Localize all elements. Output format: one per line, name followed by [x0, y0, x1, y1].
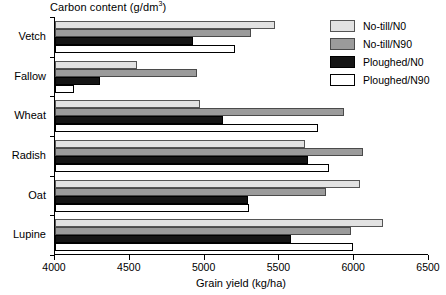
x-axis-tick [54, 255, 55, 260]
legend-label-no-till-n0: No-till/N0 [363, 20, 406, 32]
bar-oat-no-till-n90 [55, 188, 326, 196]
bar-lupine-ploughed-n90 [55, 243, 353, 251]
bar-fallow-no-till-n90 [55, 69, 197, 77]
bar-wheat-no-till-n90 [55, 108, 344, 116]
legend-item: Ploughed/N90 [330, 72, 442, 90]
bar-group [55, 100, 428, 132]
chart-legend: No-till/N0No-till/N90Ploughed/N0Ploughed… [330, 18, 442, 90]
bar-wheat-ploughed-n0 [55, 116, 223, 124]
legend-swatch-ploughed-n90 [330, 74, 355, 86]
bar-radish-ploughed-n90 [55, 164, 329, 172]
x-axis-tick [278, 255, 279, 260]
x-axis-tick-label: 4500 [117, 261, 140, 273]
category-label-lupine: Lupine [0, 228, 50, 240]
chart-title-main: Carbon content (g/dm [50, 1, 158, 13]
bar-wheat-ploughed-n90 [55, 124, 318, 132]
bar-vetch-ploughed-n90 [55, 45, 235, 53]
bar-vetch-no-till-n0 [55, 21, 275, 29]
category-tick [50, 57, 55, 58]
category-tick [50, 215, 55, 216]
category-label-radish: Radish [0, 149, 50, 161]
bar-lupine-no-till-n0 [55, 219, 383, 227]
bar-oat-ploughed-n0 [55, 196, 248, 204]
x-axis: 400045005000550060006500 [54, 255, 428, 277]
category-label-oat: Oat [0, 189, 50, 201]
bar-fallow-ploughed-n90 [55, 85, 74, 93]
legend-item: Ploughed/N0 [330, 54, 442, 72]
category-tick [50, 176, 55, 177]
x-axis-tick-label: 5500 [267, 261, 290, 273]
bar-group [55, 219, 428, 251]
x-axis-tick-label: 6000 [342, 261, 365, 273]
bar-radish-ploughed-n0 [55, 156, 308, 164]
bar-fallow-ploughed-n0 [55, 77, 100, 85]
chart-title-tail: ) [162, 1, 166, 13]
legend-swatch-no-till-n0 [330, 20, 355, 32]
legend-swatch-no-till-n90 [330, 38, 355, 50]
x-axis-tick-label: 4000 [42, 261, 65, 273]
chart-title: Carbon content (g/dm3) [50, 1, 166, 13]
legend-label-ploughed-n90: Ploughed/N90 [363, 74, 430, 86]
bar-group [55, 140, 428, 172]
bar-vetch-no-till-n90 [55, 29, 251, 37]
x-axis-tick-label: 5000 [192, 261, 215, 273]
legend-item: No-till/N0 [330, 18, 442, 36]
x-axis-tick [129, 255, 130, 260]
category-tick [50, 96, 55, 97]
bar-group [55, 180, 428, 212]
bar-vetch-ploughed-n0 [55, 37, 193, 45]
bar-lupine-ploughed-n0 [55, 235, 291, 243]
legend-swatch-ploughed-n0 [330, 56, 355, 68]
category-tick [50, 136, 55, 137]
x-axis-tick [204, 255, 205, 260]
legend-label-ploughed-n0: Ploughed/N0 [363, 56, 424, 68]
bar-oat-ploughed-n90 [55, 204, 249, 212]
bar-lupine-no-till-n90 [55, 227, 351, 235]
legend-item: No-till/N90 [330, 36, 442, 54]
bar-oat-no-till-n0 [55, 180, 360, 188]
category-tick [50, 17, 55, 18]
legend-label-no-till-n90: No-till/N90 [363, 38, 412, 50]
category-label-vetch: Vetch [0, 30, 50, 42]
category-label-wheat: Wheat [0, 109, 50, 121]
bar-radish-no-till-n0 [55, 140, 305, 148]
x-axis-tick-label: 6500 [416, 261, 439, 273]
x-axis-tick [428, 255, 429, 260]
bar-radish-no-till-n90 [55, 148, 363, 156]
bar-chart: Carbon content (g/dm3) VetchFallowWheatR… [0, 0, 446, 295]
category-label-fallow: Fallow [0, 70, 50, 82]
x-axis-tick [353, 255, 354, 260]
bar-wheat-no-till-n0 [55, 100, 200, 108]
bar-fallow-no-till-n0 [55, 61, 137, 69]
x-axis-title: Grain yield (kg/ha) [54, 277, 428, 289]
